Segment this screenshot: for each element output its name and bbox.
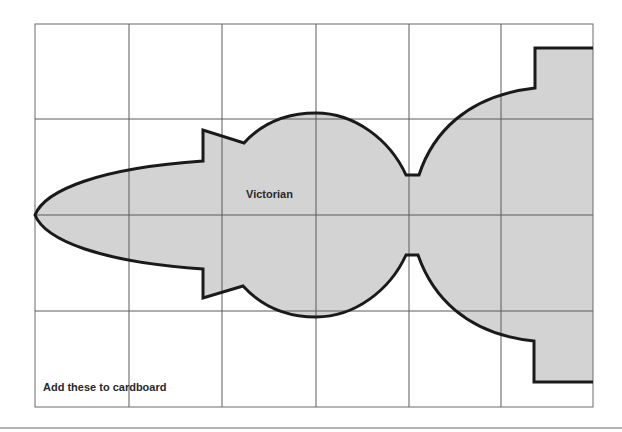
page-divider (0, 427, 622, 429)
grid-lines (35, 24, 593, 407)
instruction-note: Add these to cardboard (43, 381, 166, 393)
grid-template-diagram (0, 0, 622, 432)
shape-title-label: Victorian (246, 188, 293, 200)
